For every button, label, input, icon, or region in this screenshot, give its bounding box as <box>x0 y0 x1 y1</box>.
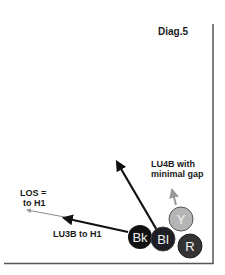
ball-black-label: Bk <box>132 230 148 245</box>
diagram-canvas: Diag.5 LOS = to H1 LU3B to H1 LU4B with … <box>0 0 225 275</box>
ball-yellow-label: Y <box>177 212 186 227</box>
ball-red-label: R <box>185 239 194 254</box>
ball-black: Bk <box>128 225 152 249</box>
ball-blue: Bl <box>151 227 175 251</box>
los-line-arrow <box>27 210 70 218</box>
lu3b-label: LU3B to H1 <box>53 229 102 239</box>
ball-red: R <box>178 234 202 258</box>
ball-blue-label: Bl <box>157 232 169 247</box>
lu4b-label-line1: LU4B with <box>151 159 195 169</box>
lu4b-arrow <box>172 190 176 205</box>
diagram-title: Diag.5 <box>158 26 188 37</box>
los-label-line2: to H1 <box>23 198 46 208</box>
los-label-line1: LOS = <box>20 188 46 198</box>
ball-yellow: Y <box>169 207 193 231</box>
lu4b-label-line2: minimal gap <box>151 169 204 179</box>
